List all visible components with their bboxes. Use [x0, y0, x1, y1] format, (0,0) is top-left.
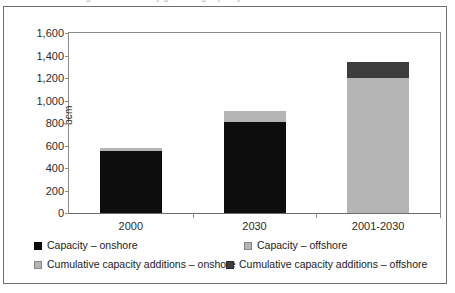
- bar-segment[interactable]: [100, 151, 162, 213]
- legend-item[interactable]: Cumulative capacity additions – offshore: [226, 259, 427, 270]
- y-axis-tick-label: 0: [10, 208, 64, 219]
- chart-legend: Capacity – onshoreCapacity – offshoreCum…: [34, 236, 446, 274]
- chart-plot-area: bcm 02004006008001,0001,2001,4001,600 20…: [68, 32, 441, 214]
- y-axis-tick-label: 600: [10, 140, 64, 151]
- y-axis-tick-label: 1,600: [10, 28, 64, 39]
- y-axis-tick-mark: [65, 213, 69, 214]
- y-axis-tick-label: 1,400: [10, 50, 64, 61]
- y-axis-tick-mark: [65, 33, 69, 34]
- bar-segment[interactable]: [224, 122, 286, 213]
- x-axis-tick-label: 2000: [119, 220, 143, 232]
- y-axis-tick-mark: [65, 191, 69, 192]
- x-axis-tick-mark: [440, 213, 441, 218]
- bar-segment[interactable]: [347, 78, 409, 213]
- figure-frame: bcm 02004006008001,0001,2001,4001,600 20…: [3, 6, 447, 284]
- figure-title-text: World gas-fired electricity generating c…: [60, 0, 241, 2]
- bar-segment[interactable]: [347, 62, 409, 78]
- legend-label: Capacity – onshore: [47, 240, 137, 251]
- legend-swatch-icon: [244, 242, 252, 250]
- legend-label: Capacity – offshore: [257, 240, 347, 251]
- y-axis-tick-label: 1,000: [10, 95, 64, 106]
- x-axis-tick-mark: [193, 213, 194, 218]
- y-axis-tick-label: 1,200: [10, 73, 64, 84]
- legend-item[interactable]: Capacity – offshore: [244, 240, 347, 251]
- legend-swatch-icon: [34, 242, 42, 250]
- bar-2030[interactable]: [224, 111, 286, 213]
- legend-item[interactable]: Capacity – onshore: [34, 240, 244, 251]
- bar-2000[interactable]: [100, 148, 162, 213]
- y-axis-tick-mark: [65, 56, 69, 57]
- y-axis-tick-mark: [65, 123, 69, 124]
- y-axis-tick-mark: [65, 101, 69, 102]
- legend-row: Cumulative capacity additions – onshoreC…: [34, 255, 446, 274]
- legend-swatch-icon: [226, 261, 234, 269]
- y-axis-tick-label: 200: [10, 185, 64, 196]
- y-axis-tick-mark: [65, 146, 69, 147]
- bar-2001-2030[interactable]: [347, 62, 409, 213]
- bar-segment[interactable]: [224, 111, 286, 122]
- legend-swatch-icon: [34, 261, 42, 269]
- y-axis-tick-mark: [65, 78, 69, 79]
- legend-item[interactable]: Cumulative capacity additions – onshore: [34, 259, 226, 270]
- y-axis-title: bcm: [63, 85, 74, 125]
- x-axis-tick-mark: [316, 213, 317, 218]
- legend-label: Cumulative capacity additions – offshore: [239, 259, 427, 270]
- y-axis-tick-mark: [65, 168, 69, 169]
- legend-row: Capacity – onshoreCapacity – offshore: [34, 236, 446, 255]
- legend-label: Cumulative capacity additions – onshore: [47, 259, 236, 270]
- y-axis-tick-label: 400: [10, 163, 64, 174]
- x-axis-tick-label: 2001-2030: [352, 220, 405, 232]
- y-axis-tick-label: 800: [10, 118, 64, 129]
- x-axis-tick-label: 2030: [242, 220, 266, 232]
- clipped-figure-title: World gas-fired electricity generating c…: [0, 0, 455, 5]
